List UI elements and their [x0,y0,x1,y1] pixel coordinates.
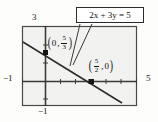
x-axis-min-label: −1 [3,74,13,83]
fraction-five-thirds: 5 3 [61,35,67,51]
fraction-five-halves: 5 2 [94,58,100,74]
x-intercept-marker [89,79,95,84]
fraction-denominator: 2 [94,67,100,74]
paren-close: ) [69,36,72,50]
equation-text: 2x + 3y = 5 [89,10,131,20]
fraction-numerator: 5 [61,35,67,42]
equation-callout-box: 2x + 3y = 5 [76,7,144,23]
linear-equation-figure: 3 −1 5 −1 2x + 3y = 5 ( 0 , 5 3 ) ( 5 2 … [0,0,158,122]
paren-open: ( [48,36,51,50]
y-axis-max-label: 3 [32,13,37,22]
x-intercept-y-value: 0 [104,62,109,71]
y-intercept-label: ( 0 , 5 3 ) [47,35,73,51]
fraction-numerator: 5 [94,58,100,65]
paren-close: ) [110,59,113,73]
paren-open: ( [89,59,92,73]
x-axis-max-label: 5 [146,74,151,83]
fraction-denominator: 3 [61,44,67,51]
comma: , [56,39,60,48]
y-axis-min-label: −1 [38,107,48,116]
x-intercept-label: ( 5 2 , 0 ) [88,58,114,74]
plot-background [23,27,137,106]
